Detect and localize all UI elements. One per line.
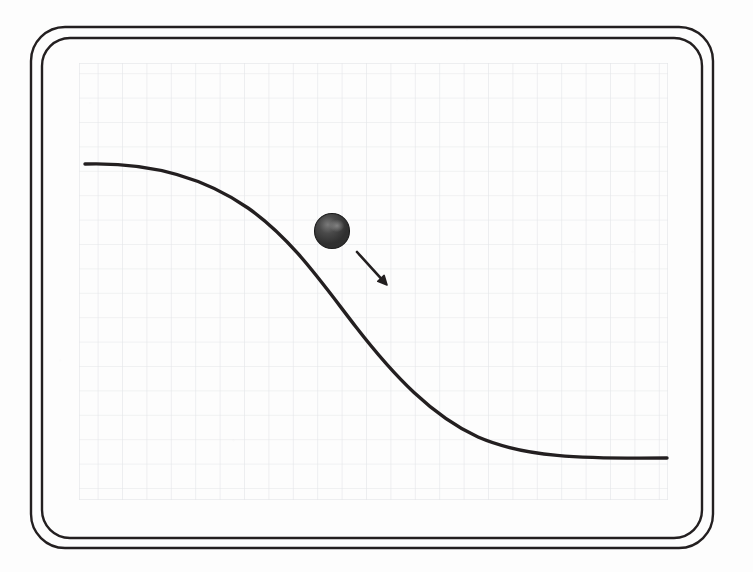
figure-canvas: Ball rolling down a slope Hand-drawn ske… — [0, 0, 753, 572]
ball-highlight — [329, 219, 344, 232]
rolling-ball — [315, 214, 350, 249]
ball-body — [315, 214, 350, 249]
ball-on-slope-diagram — [0, 0, 753, 572]
graph-paper-grid — [79, 63, 668, 500]
